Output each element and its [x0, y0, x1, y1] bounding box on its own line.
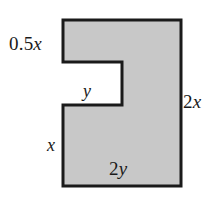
label-half-x: 0.5x — [9, 34, 42, 53]
label-y: y — [83, 82, 91, 100]
label-2y-variable: y — [119, 158, 128, 179]
label-half-x-variable: x — [33, 33, 42, 54]
label-x-variable: x — [47, 135, 55, 155]
label-2x-variable: x — [193, 91, 202, 112]
geometry-figure: 0.5x y x 2x 2y — [0, 0, 215, 206]
label-2y: 2y — [109, 159, 127, 178]
label-2x: 2x — [183, 92, 201, 111]
label-2x-prefix: 2 — [183, 91, 193, 112]
label-2y-prefix: 2 — [109, 158, 119, 179]
label-y-variable: y — [83, 81, 91, 101]
label-half-x-prefix: 0.5 — [9, 33, 33, 54]
label-x: x — [47, 136, 55, 154]
